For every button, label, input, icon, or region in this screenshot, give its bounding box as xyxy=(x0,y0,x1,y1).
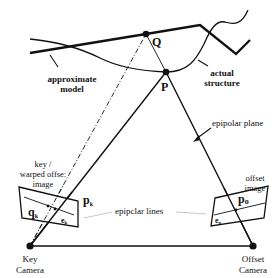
offset-camera-dot xyxy=(249,242,256,249)
label-epipolar-plane: epipolar plane xyxy=(212,118,263,128)
label-Q: Q xyxy=(152,35,161,49)
label-p-k: pk xyxy=(83,193,94,207)
label-offset-image-2: image xyxy=(245,183,266,193)
label-model: model xyxy=(60,84,84,94)
label-offset-camera-2: Camera xyxy=(239,265,267,275)
label-key-camera-1: Key xyxy=(23,254,38,264)
epipolar-plane-arrowhead xyxy=(193,135,200,142)
epipolar-diagram: Q P approximate model actual structure e… xyxy=(0,0,276,278)
actual-structure-curve xyxy=(30,10,248,72)
approximate-model-line xyxy=(30,25,250,54)
label-key-image-3: image xyxy=(33,179,54,189)
point-P xyxy=(163,69,170,76)
q-k-point xyxy=(47,205,50,208)
label-approximate: approximate xyxy=(48,74,97,84)
point-Q xyxy=(143,31,150,38)
label-epipolar-lines: epipclar lines xyxy=(115,206,164,216)
epipolar-lines-connector-right xyxy=(176,212,206,214)
label-offset-camera-1: Offset xyxy=(242,254,265,264)
label-key-image-1: key / xyxy=(35,159,52,169)
label-offset-image-1: offset xyxy=(245,173,265,183)
label-key-image-2: warped offse: xyxy=(20,169,66,179)
label-structure: structure xyxy=(204,78,239,88)
e-k-point xyxy=(54,208,57,211)
label-P: P xyxy=(161,80,168,94)
label-actual: actual xyxy=(210,68,234,78)
e-o-point xyxy=(235,209,238,212)
label-key-camera-2: Camera xyxy=(16,265,44,275)
approximate-model-leader xyxy=(50,55,58,67)
key-camera-dot xyxy=(26,242,33,249)
actual-structure-leader xyxy=(198,60,208,66)
epipolar-lines-connector-left xyxy=(84,212,112,218)
